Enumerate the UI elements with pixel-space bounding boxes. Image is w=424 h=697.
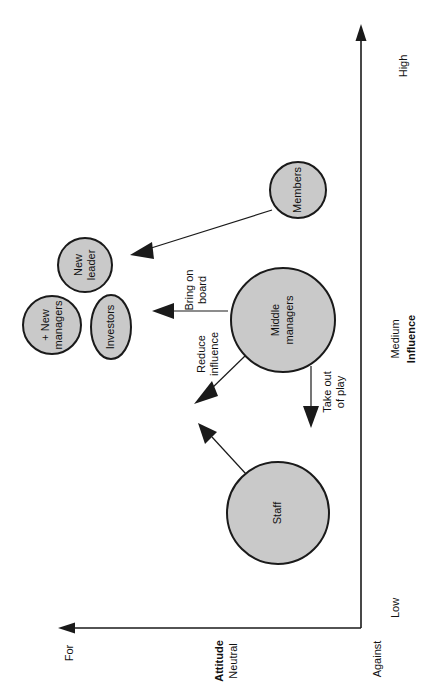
attitude-axis-arrowhead <box>58 623 75 634</box>
arrow-members-to-new-leader-line <box>148 210 272 249</box>
arrow-reduce-influence-label-group: Reduce influence <box>195 332 220 376</box>
arrow-bring-on-board: Bring on board <box>152 270 228 319</box>
influence-tick-low: Low <box>389 598 401 618</box>
bring-on-board-label-line2: board <box>196 276 208 304</box>
influence-tick-medium: Medium <box>389 319 401 358</box>
bubble-new-leader-label-line2: leader <box>85 249 97 280</box>
bubble-new-leader[interactable]: New leader <box>58 238 112 292</box>
attitude-tick-neutral-label: Neutral <box>227 643 239 678</box>
attitude-tick-neutral: Neutral <box>227 643 239 678</box>
bubble-middle-managers-label-line2: managers <box>283 295 295 344</box>
attitude-tick-for: For <box>63 644 75 661</box>
arrow-staff-move-line <box>212 437 246 474</box>
influence-tick-low-label: Low <box>389 598 401 618</box>
attitude-axis-title: Attitude <box>213 640 225 682</box>
arrow-bring-on-board-head <box>152 303 174 319</box>
reduce-influence-label-line1: Reduce <box>195 335 207 373</box>
take-out-of-play-label-line1: Take out <box>321 371 333 413</box>
attitude-tick-for-label: For <box>63 644 75 661</box>
bring-on-board-label-line1: Bring on <box>183 270 195 311</box>
arrow-staff-move-head <box>198 423 217 444</box>
stakeholder-map-diagram: High Medium Low Influence Against Neutra… <box>0 0 424 697</box>
bubble-new-managers[interactable]: + New managers <box>23 296 81 354</box>
bubble-members-label-group: Members <box>291 167 303 213</box>
influence-axis-title: Influence <box>405 315 417 363</box>
arrow-bring-on-board-label-group: Bring on board <box>183 270 208 311</box>
arrow-take-out-of-play-label-group: Take out of play <box>321 371 346 413</box>
take-out-of-play-label-line2: of play <box>334 375 346 408</box>
bubble-staff-label-group: Staff <box>271 501 283 524</box>
bubble-staff-label: Staff <box>271 501 283 524</box>
bubble-new-leader-label-group: New leader <box>72 249 97 280</box>
bubble-investors[interactable]: Investors <box>91 295 131 359</box>
bubble-investors-label: Investors <box>104 304 116 349</box>
bubble-new-leader-label-line1: New <box>72 254 84 276</box>
arrow-members-to-new-leader <box>130 210 272 259</box>
arrow-members-to-new-leader-head <box>130 242 154 259</box>
bubble-members-label: Members <box>291 167 303 213</box>
influence-tick-high-label: High <box>397 55 409 78</box>
influence-tick-medium-label: Medium <box>389 319 401 358</box>
arrow-take-out-of-play: Take out of play <box>303 366 346 428</box>
diagram-canvas: High Medium Low Influence Against Neutra… <box>0 0 424 697</box>
bubble-staff[interactable]: Staff <box>227 462 329 564</box>
bubble-members[interactable]: Members <box>270 162 326 218</box>
influence-tick-high: High <box>397 55 409 78</box>
arrow-staff-move <box>198 423 246 474</box>
attitude-tick-against: Against <box>371 641 383 678</box>
reduce-influence-label-line2: influence <box>208 332 220 376</box>
attitude-tick-against-label: Against <box>371 641 383 678</box>
bubble-new-managers-label-line1: + New <box>39 309 51 341</box>
influence-axis-title-label: Influence <box>405 315 417 363</box>
bubble-new-managers-label-line2: managers <box>52 300 64 349</box>
arrow-reduce-influence-head <box>194 381 218 404</box>
arrow-take-out-of-play-head <box>303 406 319 428</box>
influence-axis-arrowhead <box>356 24 367 41</box>
axis-attitude <box>58 623 361 634</box>
bubble-middle-managers[interactable]: Middle managers <box>231 268 335 372</box>
axis-influence <box>356 24 367 628</box>
bubble-middle-managers-label-line1: Middle <box>269 304 281 336</box>
attitude-axis-title-label: Attitude <box>213 640 225 682</box>
bubble-investors-label-group: Investors <box>104 304 116 349</box>
